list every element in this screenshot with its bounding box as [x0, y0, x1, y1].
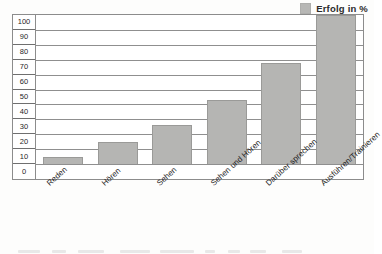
y-axis-tick: 30: [13, 119, 35, 134]
y-axis-tick: 40: [13, 104, 35, 119]
bar-cell: [91, 15, 146, 179]
y-axis-tick: 100: [13, 15, 35, 30]
bar: [316, 15, 356, 164]
bar-cell: [145, 15, 200, 179]
bar: [43, 157, 83, 164]
y-axis-tick: 90: [13, 30, 35, 45]
y-axis-tick: 80: [13, 45, 35, 60]
y-axis-tick: 60: [13, 75, 35, 90]
plot-area: [36, 15, 363, 179]
bar-series: [36, 15, 363, 179]
bar: [261, 63, 301, 164]
bar: [98, 142, 138, 164]
legend-label: Erfolg in %: [316, 3, 368, 14]
y-axis-tick: 70: [13, 60, 35, 75]
chart-frame: 1009080706050403020100: [12, 14, 364, 180]
y-axis-tick: 10: [13, 149, 35, 164]
chart-legend: Erfolg in %: [300, 2, 368, 14]
y-axis-tick: 0: [13, 164, 35, 179]
y-axis-labels: 1009080706050403020100: [13, 15, 36, 179]
bar: [152, 125, 192, 164]
bar-cell: [36, 15, 91, 179]
y-axis-tick: 50: [13, 90, 35, 105]
legend-swatch-icon: [300, 3, 311, 14]
y-axis-tick: 20: [13, 134, 35, 149]
x-axis-labels: RedenHörenSehenSehen und HörenDarüber sp…: [35, 181, 364, 253]
